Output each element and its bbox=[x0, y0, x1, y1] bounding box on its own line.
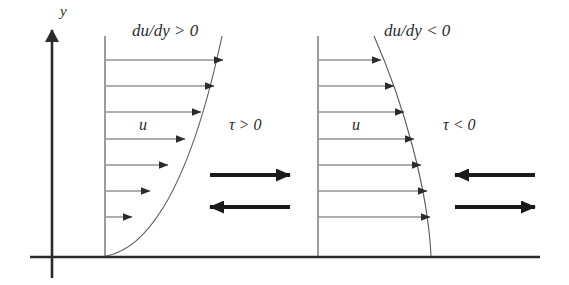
velocity-label-panel-1: u bbox=[139, 117, 147, 133]
shear-stress-arrows-panel-2 bbox=[455, 175, 535, 207]
velocity-arrows-panel-1 bbox=[106, 60, 223, 217]
shear-stress-label-panel-2: τ < 0 bbox=[443, 117, 476, 133]
panel-positive-shear-group bbox=[105, 36, 290, 256]
velocity-profile-curve-panel-1 bbox=[106, 36, 222, 256]
velocity-label-panel-2: u bbox=[352, 117, 360, 133]
velocity-profile-curve-panel-2 bbox=[374, 36, 431, 256]
velocity-arrows-panel-2 bbox=[319, 60, 430, 217]
panel-negative-shear-group bbox=[318, 36, 535, 256]
y-axis-label: y bbox=[60, 4, 67, 19]
diagram-canvas bbox=[0, 0, 569, 285]
shear-stress-arrows-panel-1 bbox=[210, 175, 290, 207]
shear-stress-diagram: y du/dy > 0 u τ > 0 du/dy < 0 u τ < 0 bbox=[0, 0, 569, 285]
shear-stress-label-panel-1: τ > 0 bbox=[229, 117, 262, 133]
axes-group bbox=[30, 30, 540, 278]
gradient-label-panel-1: du/dy > 0 bbox=[132, 22, 198, 39]
gradient-label-panel-2: du/dy < 0 bbox=[384, 22, 450, 39]
